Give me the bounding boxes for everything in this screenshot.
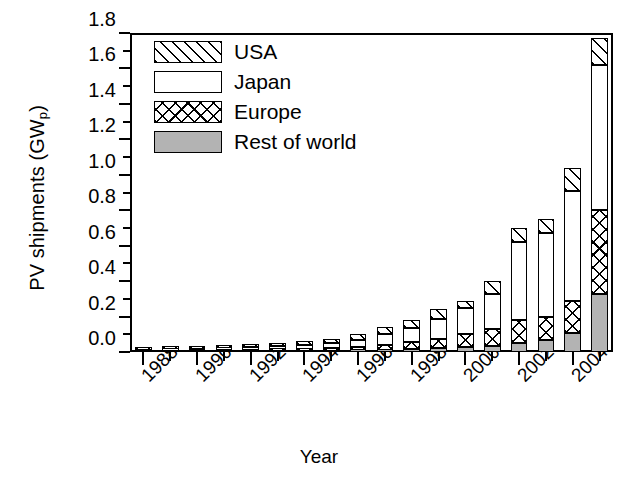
bar-segment-usa — [538, 219, 555, 233]
x-axis-minor-tick — [384, 352, 386, 361]
bar-1999 — [430, 309, 447, 352]
chart-legend: USAJapanEuropeRest of world — [154, 39, 357, 159]
bar-segment-japan — [296, 345, 313, 349]
bar-segment-europe — [484, 329, 501, 346]
x-axis-minor-tick — [169, 352, 171, 361]
bar-segment-usa — [242, 344, 259, 347]
bar-segment-usa — [430, 309, 447, 319]
y-axis-major-tick — [119, 67, 130, 69]
bar-segment-japan — [350, 340, 367, 347]
y-axis-minor-tick — [123, 121, 130, 123]
y-axis-minor-tick — [123, 298, 130, 300]
bar-segment-japan — [377, 334, 394, 345]
y-axis-major-tick — [119, 316, 130, 318]
y-axis-major-tick — [119, 174, 130, 176]
bar-segment-usa — [484, 281, 501, 293]
bar-2004 — [564, 168, 581, 352]
bar-1994 — [296, 341, 313, 352]
x-axis-minor-tick — [599, 352, 601, 361]
bar-segment-europe — [350, 347, 367, 351]
bar-segment-japan — [511, 242, 528, 320]
bar-2005 — [591, 38, 608, 352]
bar-segment-usa — [162, 346, 179, 349]
axis-spine-right — [611, 33, 613, 352]
y-axis-tick-label: 0.8 — [88, 185, 116, 208]
bar-segment-japan — [591, 65, 608, 210]
bar-1995 — [323, 339, 340, 352]
y-axis-major-tick — [119, 32, 130, 34]
legend-swatch-europe — [154, 101, 222, 123]
y-axis-tick-label: 0.0 — [88, 327, 116, 350]
y-axis-tick-label: 1.8 — [88, 8, 116, 31]
bar-segment-usa — [189, 346, 206, 349]
bar-1997 — [377, 327, 394, 352]
bar-segment-europe — [403, 342, 420, 349]
bar-segment-usa — [564, 168, 581, 191]
bar-segment-japan — [538, 233, 555, 316]
bar-segment-row — [591, 294, 608, 352]
x-axis-minor-tick — [545, 352, 547, 361]
bar-segment-japan — [403, 328, 420, 342]
y-axis-minor-tick — [123, 156, 130, 158]
legend-item-usa: USA — [154, 39, 357, 64]
bar-2002 — [511, 228, 528, 352]
bar-segment-japan — [457, 308, 474, 334]
bar-segment-japan — [269, 346, 286, 349]
y-axis-label-text: PV shipments (GW — [26, 119, 48, 291]
legend-item-europe: Europe — [154, 99, 357, 124]
legend-item-japan: Japan — [154, 69, 357, 94]
bar-1992 — [242, 345, 259, 352]
y-axis-minor-tick — [123, 262, 130, 264]
bar-segment-usa — [377, 327, 394, 334]
bar-segment-japan — [430, 319, 447, 338]
y-axis-major-tick — [119, 209, 130, 211]
y-axis-major-tick — [119, 351, 130, 353]
bar-2001 — [484, 281, 501, 352]
bar-segment-europe — [457, 334, 474, 347]
bar-segment-usa — [350, 334, 367, 339]
y-axis-minor-tick — [123, 50, 130, 52]
y-axis-tick-label: 0.4 — [88, 256, 116, 279]
y-axis-tick-label: 1.4 — [88, 79, 116, 102]
legend-swatch-japan — [154, 71, 222, 93]
y-axis-minor-tick — [123, 333, 130, 335]
y-axis-label-subscript: p — [35, 112, 50, 119]
bar-segment-usa — [403, 320, 420, 328]
bar-1998 — [403, 320, 420, 352]
bar-segment-europe — [323, 348, 340, 351]
y-axis-tick-label: 0.6 — [88, 221, 116, 244]
bar-2003 — [538, 219, 555, 352]
y-axis-minor-tick — [123, 227, 130, 229]
bar-2000 — [457, 301, 474, 352]
y-axis-major-tick — [119, 138, 130, 140]
y-axis-tick-label: 1.6 — [88, 43, 116, 66]
y-axis-minor-tick — [123, 85, 130, 87]
axis-spine-top — [130, 33, 613, 35]
plot-area: USAJapanEuropeRest of world 0.00.20.40.6… — [130, 33, 613, 352]
y-axis-tick-label: 1.2 — [88, 114, 116, 137]
y-axis-major-tick — [119, 103, 130, 105]
legend-item-row: Rest of world — [154, 129, 357, 154]
legend-swatch-usa — [154, 41, 222, 63]
legend-label: Rest of world — [234, 130, 357, 154]
legend-label: Japan — [234, 70, 291, 94]
y-axis-major-tick — [119, 280, 130, 282]
y-axis-tick-label: 1.0 — [88, 150, 116, 173]
pv-shipments-bar-chart: PV shipments (GWp) USAJapanEuropeRest of… — [0, 0, 638, 484]
y-axis-label-suffix: ) — [26, 105, 48, 112]
bar-segment-usa — [591, 38, 608, 65]
bar-segment-europe — [564, 301, 581, 333]
bar-segment-usa — [216, 345, 233, 348]
x-axis-minor-tick — [330, 352, 332, 361]
bar-segment-europe — [377, 345, 394, 350]
x-axis-minor-tick — [277, 352, 279, 361]
bar-segment-europe — [511, 320, 528, 343]
x-axis-label: Year — [0, 446, 638, 468]
bar-segment-europe — [430, 339, 447, 349]
y-axis-label: PV shipments (GWp) — [26, 68, 50, 328]
bar-segment-row — [564, 333, 581, 352]
y-axis-minor-tick — [123, 192, 130, 194]
bar-segment-usa — [269, 343, 286, 346]
y-axis-tick-label: 0.2 — [88, 292, 116, 315]
bar-segment-japan — [323, 343, 340, 348]
